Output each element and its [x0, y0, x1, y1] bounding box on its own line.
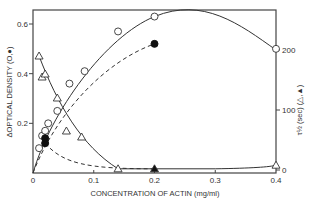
open-circle-marker	[42, 127, 49, 134]
open-triangle-marker	[62, 127, 70, 134]
y2-tick-label: 0	[282, 166, 287, 175]
y2-axis-label: τ½ (sec) (△,▲)	[295, 84, 304, 135]
y-tick-label: 0.4	[17, 70, 29, 79]
x-tick-label: 0.4	[270, 176, 282, 185]
open-circle-marker	[45, 120, 52, 127]
filled-circle-marker	[42, 135, 49, 142]
y-tick-label: 0.6	[17, 20, 29, 29]
filled-circle-marker	[151, 40, 158, 47]
y-axis-label: ΔOPTICAL DENSITY (O,●)	[5, 46, 14, 137]
open-triangle-marker	[35, 52, 43, 59]
filled-triangle-curve	[45, 143, 154, 169]
x-axis-label: CONCENTRATION OF ACTIN (mg/ml)	[90, 189, 220, 198]
filled-circle-curve	[33, 44, 155, 173]
chart: 00.10.20.30.40.20.40.60100200CONCENTRATI…	[0, 0, 314, 203]
open-circle-marker	[36, 145, 43, 152]
y2-tick-label: 100	[282, 106, 296, 115]
open-circle-curve	[33, 10, 276, 173]
open-triangle-marker	[272, 161, 280, 168]
open-triangle-curve	[39, 56, 276, 169]
open-triangle-marker	[78, 133, 86, 140]
open-circle-marker	[151, 13, 158, 20]
open-triangle-marker	[53, 94, 61, 101]
x-tick-label: 0.2	[149, 176, 161, 185]
open-circle-marker	[66, 80, 73, 87]
open-circle-marker	[273, 45, 280, 52]
open-circle-marker	[115, 28, 122, 35]
y-tick-label: 0.2	[17, 119, 29, 128]
plot-svg: 00.10.20.30.40.20.40.60100200CONCENTRATI…	[0, 0, 314, 203]
x-tick-label: 0	[31, 176, 36, 185]
x-tick-label: 0.1	[88, 176, 100, 185]
open-circle-marker	[54, 107, 61, 114]
open-circle-marker	[81, 68, 88, 75]
x-tick-label: 0.3	[210, 176, 222, 185]
plot-frame	[33, 10, 276, 173]
y2-tick-label: 200	[282, 46, 296, 55]
